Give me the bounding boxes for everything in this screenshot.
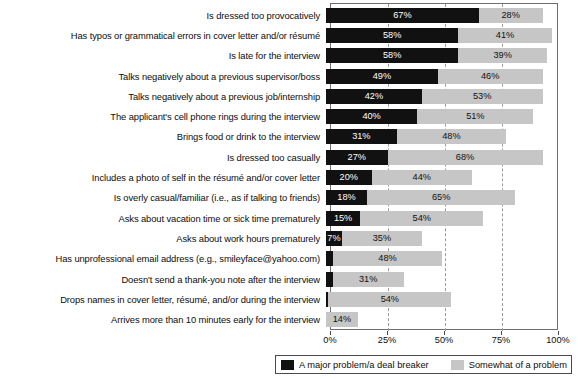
chart-row: Asks about work hours prematurely7%35% — [0, 228, 580, 248]
bar-segment-major: 20% — [326, 170, 372, 185]
legend-label-somewhat: Somewhat of a problem — [469, 360, 567, 370]
x-tick-label: 100% — [546, 335, 570, 345]
bar-value-somewhat: 31% — [359, 274, 377, 284]
bar-value-somewhat: 14% — [333, 314, 351, 324]
chart-row: Is dressed too provocatively67%28% — [0, 5, 580, 25]
chart-row: Talks negatively about a previous job/in… — [0, 86, 580, 106]
chart-row: Is dressed too casually27%68% — [0, 147, 580, 167]
bar-segment-major: 58% — [326, 48, 458, 63]
bar-group: 27%68% — [326, 150, 554, 165]
bar-group: 40%51% — [326, 109, 554, 124]
bar-value-major: 58% — [383, 30, 401, 40]
bar-value-somewhat: 48% — [442, 131, 460, 141]
bar-value-somewhat: 44% — [413, 172, 431, 182]
bar-segment-major: 18% — [326, 190, 367, 205]
bar-group: 31% — [326, 272, 554, 287]
category-label: Drops names in cover letter, résumé, and… — [0, 294, 326, 305]
chart-row: The applicant's cell phone rings during … — [0, 106, 580, 126]
bar-value-somewhat: 68% — [456, 152, 474, 162]
bar-value-somewhat: 53% — [473, 91, 491, 101]
x-tick-label: 75% — [492, 335, 510, 345]
x-tick-label: 0% — [323, 335, 336, 345]
category-label: Is dressed too casually — [0, 152, 326, 163]
bar-segment-major: 27% — [326, 150, 388, 165]
bar-segment-somewhat: 44% — [372, 170, 472, 185]
category-label: Talks negatively about a previous job/in… — [0, 91, 326, 102]
bar-group: 15%54% — [326, 211, 554, 226]
bar-segment-major: 42% — [326, 89, 422, 104]
bar-value-major: 31% — [352, 131, 370, 141]
bar-group: 42%53% — [326, 89, 554, 104]
bar-segment-major: 31% — [326, 129, 397, 144]
chart-row: Includes a photo of self in the résumé a… — [0, 167, 580, 187]
bar-segment-major: 7% — [326, 231, 342, 246]
bar-segment-somewhat: 46% — [438, 69, 543, 84]
bar-segment-somewhat: 48% — [397, 129, 506, 144]
bar-group: 20%44% — [326, 170, 554, 185]
bar-segment-somewhat: 65% — [367, 190, 515, 205]
legend-item-somewhat: Somewhat of a problem — [451, 360, 567, 370]
chart-row: Asks about vacation time or sick time pr… — [0, 208, 580, 228]
bar-value-major: 20% — [340, 172, 358, 182]
bar-value-major: 27% — [348, 152, 366, 162]
bar-value-somewhat: 28% — [501, 10, 519, 20]
x-tick-label: 50% — [435, 335, 453, 345]
bar-value-somewhat: 46% — [481, 71, 499, 81]
bar-value-somewhat: 41% — [496, 30, 514, 40]
chart-row: Has typos or grammatical errors in cover… — [0, 25, 580, 45]
category-label: Is overly casual/familiar (i.e., as if t… — [0, 192, 326, 203]
category-label: Asks about vacation time or sick time pr… — [0, 213, 326, 224]
bar-segment-somewhat: 54% — [328, 292, 451, 307]
bar-value-major: 15% — [334, 213, 352, 223]
bar-segment-somewhat: 39% — [458, 48, 547, 63]
bar-group: 7%35% — [326, 231, 554, 246]
bar-segment-somewhat: 68% — [388, 150, 543, 165]
category-label: Is late for the interview — [0, 50, 326, 61]
stacked-bar-chart: Is dressed too provocatively67%28%Has ty… — [0, 0, 580, 379]
bar-value-major: 7% — [327, 233, 340, 243]
bar-segment-somewhat: 54% — [360, 211, 483, 226]
x-axis: 0%25%50%75%100% — [330, 331, 558, 347]
bar-segment-major: 40% — [326, 109, 417, 124]
bar-segment-somewhat: 48% — [333, 251, 442, 266]
bar-segment-somewhat: 31% — [333, 272, 404, 287]
category-label: Has unprofessional email address (e.g., … — [0, 253, 326, 264]
chart-row: Talks negatively about a previous superv… — [0, 66, 580, 86]
bar-group: 14% — [326, 312, 554, 327]
bar-value-somewhat: 54% — [381, 294, 399, 304]
bar-segment-somewhat: 51% — [417, 109, 533, 124]
category-label: Arrives more than 10 minutes early for t… — [0, 314, 326, 325]
category-label: Has typos or grammatical errors in cover… — [0, 30, 326, 41]
category-label: Asks about work hours prematurely — [0, 233, 326, 244]
bar-value-somewhat: 48% — [378, 253, 396, 263]
bar-group: 54% — [326, 292, 554, 307]
category-label: Talks negatively about a previous superv… — [0, 71, 326, 82]
bar-segment-major: 58% — [326, 28, 458, 43]
bar-value-somewhat: 54% — [413, 213, 431, 223]
bar-value-major: 67% — [393, 10, 411, 20]
bar-value-major: 40% — [362, 111, 380, 121]
bar-value-somewhat: 35% — [373, 233, 391, 243]
bar-segment-major: 49% — [326, 69, 438, 84]
chart-row: Brings food or drink to the interview31%… — [0, 127, 580, 147]
legend-item-major: A major problem/a deal breaker — [281, 360, 429, 370]
bar-value-somewhat: 51% — [466, 111, 484, 121]
bar-segment-major — [326, 251, 333, 266]
bar-segment-somewhat: 53% — [422, 89, 543, 104]
category-label: The applicant's cell phone rings during … — [0, 111, 326, 122]
bar-segment-somewhat: 14% — [326, 312, 358, 327]
bar-group: 58%39% — [326, 48, 554, 63]
chart-row: Is late for the interview58%39% — [0, 46, 580, 66]
chart-row: Doesn't send a thank-you note after the … — [0, 269, 580, 289]
bar-value-major: 18% — [337, 192, 355, 202]
bar-value-major: 42% — [365, 91, 383, 101]
bar-value-somewhat: 65% — [432, 192, 450, 202]
bar-group: 58%41% — [326, 28, 554, 43]
bar-group: 49%46% — [326, 69, 554, 84]
bar-group: 48% — [326, 251, 554, 266]
bar-segment-major: 67% — [326, 8, 479, 23]
legend-swatch-somewhat-icon — [451, 360, 464, 370]
chart-row: Has unprofessional email address (e.g., … — [0, 249, 580, 269]
bar-value-major: 49% — [373, 71, 391, 81]
category-label: Brings food or drink to the interview — [0, 131, 326, 142]
